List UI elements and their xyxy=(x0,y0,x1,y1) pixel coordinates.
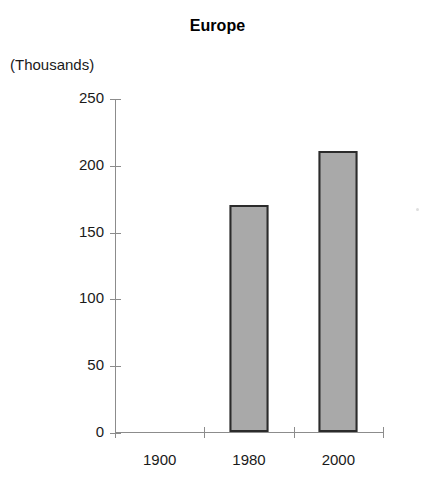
bar-2000[interactable] xyxy=(319,151,358,432)
x-axis-line xyxy=(115,432,383,433)
x-tick-mark xyxy=(383,427,384,438)
chart-title: Europe xyxy=(0,17,435,35)
x-category-label-1980: 1980 xyxy=(204,451,293,468)
y-axis-units-label: (Thousands) xyxy=(10,56,94,73)
y-tick-label: 250 xyxy=(79,89,104,106)
bar-slot-1980 xyxy=(204,99,293,432)
y-tick-label: 100 xyxy=(79,289,104,306)
y-tick-label: 50 xyxy=(87,356,104,373)
bar-slot-2000 xyxy=(294,99,383,432)
bar-chart: Europe (Thousands) 050100150200250 19001… xyxy=(0,0,435,489)
x-category-label-2000: 2000 xyxy=(294,451,383,468)
y-tick-label: 150 xyxy=(79,223,104,240)
x-category-label-1900: 1900 xyxy=(115,451,204,468)
scan-artifact xyxy=(416,208,419,211)
y-tick-label: 0 xyxy=(96,423,104,440)
bar-slot-1900 xyxy=(115,99,204,432)
plot-area: 050100150200250 xyxy=(115,99,383,433)
bar-1980[interactable] xyxy=(229,205,268,432)
y-tick-label: 200 xyxy=(79,156,104,173)
